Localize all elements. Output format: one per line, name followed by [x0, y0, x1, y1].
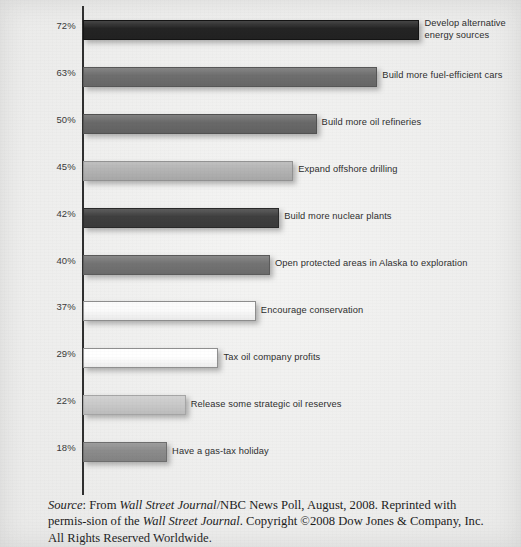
bar: [83, 208, 279, 228]
bar-value-label: 50%: [0, 114, 76, 125]
bar: [83, 301, 256, 321]
bar-value-label: 63%: [0, 67, 76, 78]
horizontal-bar-chart: 72%Develop alternative energy sources63%…: [0, 0, 521, 497]
bar-category-label: Release some strategic oil reserves: [191, 399, 342, 411]
bar-category-label: Encourage conservation: [261, 305, 363, 317]
caption-italic-journal-1: Wall Street Journal: [120, 498, 217, 512]
bar: [83, 67, 377, 87]
bar: [83, 20, 419, 40]
bar-category-label: Open protected areas in Alaska to explor…: [275, 258, 468, 270]
bar-category-label: Tax oil company profits: [223, 352, 320, 364]
bar: [83, 161, 293, 181]
bar-value-label: 29%: [0, 348, 76, 359]
bar-row: 72%Develop alternative energy sources: [0, 6, 521, 32]
bar-row: 45%Expand offshore drilling: [0, 147, 521, 173]
bar-row: 37%Encourage conservation: [0, 287, 521, 313]
bar-category-label: Build more oil refineries: [322, 117, 422, 129]
bar: [83, 114, 317, 134]
bar: [83, 255, 270, 275]
chart-page: 72%Develop alternative energy sources63%…: [0, 0, 521, 547]
bar-value-label: 72%: [0, 20, 76, 31]
bar-value-label: 22%: [0, 395, 76, 406]
bar-value-label: 18%: [0, 442, 76, 453]
bar-category-label: Build more nuclear plants: [284, 211, 391, 223]
bar: [83, 348, 218, 368]
bar-row: 29%Tax oil company profits: [0, 334, 521, 360]
bar-value-label: 45%: [0, 161, 76, 172]
caption-italic-journal-2: Wall Street Journal: [143, 514, 240, 528]
bar-row: 40%Open protected areas in Alaska to exp…: [0, 241, 521, 267]
bar-row: 42%Build more nuclear plants: [0, 194, 521, 220]
caption-text-1: : From: [83, 498, 120, 512]
source-caption: Source: From Wall Street Journal/NBC New…: [48, 497, 494, 546]
bar-category-label: Build more fuel-efficient cars: [382, 70, 502, 82]
caption-source-word: Source: [48, 498, 83, 512]
bar-category-label: Have a gas-tax holiday: [172, 446, 269, 458]
bar-category-label: Expand offshore drilling: [298, 164, 397, 176]
bar-row: 63%Build more fuel-efficient cars: [0, 53, 521, 79]
bar: [83, 442, 167, 462]
bar-value-label: 42%: [0, 208, 76, 219]
bar: [83, 395, 186, 415]
bar-value-label: 40%: [0, 255, 76, 266]
bar-row: 18%Have a gas-tax holiday: [0, 428, 521, 454]
bar-value-label: 37%: [0, 301, 76, 312]
bar-category-label: Develop alternative energy sources: [424, 18, 506, 41]
bar-row: 50%Build more oil refineries: [0, 100, 521, 126]
bar-row: 22%Release some strategic oil reserves: [0, 381, 521, 407]
